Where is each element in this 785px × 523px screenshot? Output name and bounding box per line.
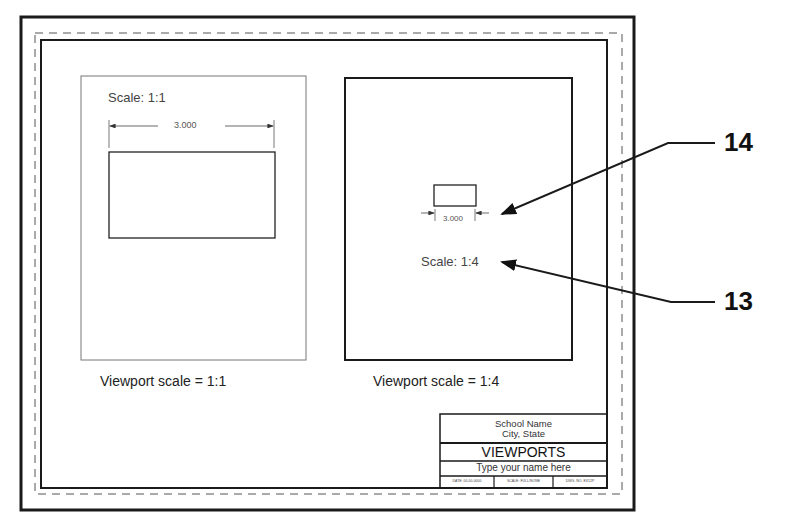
title-block-name-field[interactable]: Type your name here	[440, 461, 607, 476]
viewport-2-scale-label: Scale: 1:4	[421, 254, 479, 269]
title-block-date: DATE: 00-00-0000	[440, 476, 494, 488]
title-block-scale: SCALE: FULL/NONE	[494, 476, 553, 488]
viewport-1-caption: Viewport scale = 1:1	[100, 373, 226, 389]
title-block-title: VIEWPORTS	[440, 443, 607, 461]
callout-13-leader	[502, 262, 715, 302]
title-block-school: School Name City, State	[440, 415, 607, 443]
callout-14-number: 14	[724, 127, 753, 158]
city-state: City, State	[502, 429, 545, 439]
viewport-1-rectangle	[109, 152, 275, 238]
callout-14-leader	[502, 143, 715, 214]
title-block-drawing-number: DWG. NO. EX12P	[553, 476, 607, 488]
viewport-1-dimension-value: 3.000	[172, 120, 199, 130]
viewport-1-scale-label: Scale: 1:1	[108, 90, 166, 105]
viewport-1-frame[interactable]	[81, 76, 306, 360]
viewport-2-rectangle	[434, 185, 476, 206]
drawing-linework	[0, 0, 785, 523]
callout-13-number: 13	[724, 286, 753, 317]
viewport-2-caption: Viewport scale = 1:4	[373, 373, 499, 389]
viewport-2-dimension-value: 3.000	[441, 214, 465, 223]
